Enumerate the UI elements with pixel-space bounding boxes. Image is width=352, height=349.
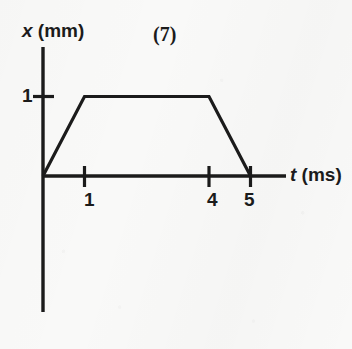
y-tick-label-1: 1 <box>22 86 33 105</box>
y-axis-title: x (mm) <box>22 21 84 40</box>
x-tick-label-5: 5 <box>244 190 255 209</box>
x-tick-label-4: 4 <box>207 190 218 209</box>
y-axis-variable: x <box>22 20 33 41</box>
x-tick-label-1: 1 <box>84 190 95 209</box>
y-axis-unit: (mm) <box>38 20 84 41</box>
figure-number-label: (7) <box>153 24 176 44</box>
x-axis-title: t (ms) <box>290 165 342 184</box>
data-trace-trapezoid <box>43 97 251 177</box>
figure-panel: x (mm) (7) t (ms) 1 1 4 5 <box>0 0 352 349</box>
x-axis-unit: (ms) <box>302 164 342 185</box>
